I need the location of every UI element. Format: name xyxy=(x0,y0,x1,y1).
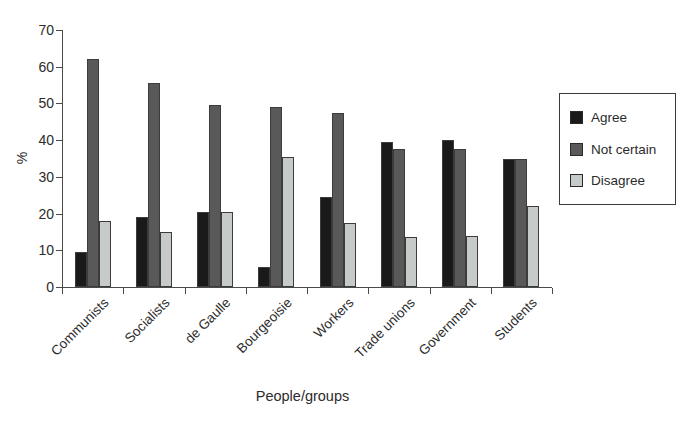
y-axis-tick xyxy=(56,250,62,251)
legend-item-disagree: Disagree xyxy=(570,173,675,188)
legend: AgreeNot certainDisagree xyxy=(559,93,676,205)
y-tick-label: 70 xyxy=(20,21,54,39)
y-tick-label: 0 xyxy=(20,278,54,296)
x-axis-tick xyxy=(368,288,369,294)
y-axis-tick xyxy=(56,30,62,31)
bar-trade-unions-agree xyxy=(381,142,393,287)
y-axis-tick xyxy=(56,140,62,141)
x-category-label-communists: Communists xyxy=(48,295,112,359)
x-category-label-government: Government xyxy=(416,295,479,358)
bar-government-agree xyxy=(442,140,454,287)
y-axis-title: % xyxy=(14,138,30,178)
bar-trade-unions-disagree xyxy=(405,237,417,287)
plot-area: 010203040506070CommunistsSocialistsde Ga… xyxy=(0,0,697,426)
bar-bourgeoisie-not-certain xyxy=(270,107,282,287)
x-axis-tick xyxy=(123,288,124,294)
bar-communists-disagree xyxy=(99,221,111,287)
x-category-label-trade-unions: Trade unions xyxy=(351,295,417,361)
bar-government-not-certain xyxy=(454,149,466,287)
x-axis-tick xyxy=(430,288,431,294)
y-tick-label: 20 xyxy=(20,205,54,223)
x-axis-tick xyxy=(552,288,553,294)
bar-chart-figure: 010203040506070CommunistsSocialistsde Ga… xyxy=(0,0,697,426)
bar-government-disagree xyxy=(466,236,478,287)
y-tick-label: 10 xyxy=(20,241,54,259)
legend-label-not-certain: Not certain xyxy=(591,142,656,157)
y-tick-label: 60 xyxy=(20,58,54,76)
x-category-label-students: Students xyxy=(492,295,540,343)
y-axis-tick xyxy=(56,67,62,68)
bar-communists-not-certain xyxy=(87,59,99,287)
x-category-label-bourgeoisie: Bourgeoisie xyxy=(234,295,295,356)
legend-swatch-disagree xyxy=(570,174,583,187)
bar-socialists-disagree xyxy=(160,232,172,287)
y-tick-label: 50 xyxy=(20,94,54,112)
legend-label-agree: Agree xyxy=(591,110,627,125)
x-axis-tick xyxy=(246,288,247,294)
y-axis-line xyxy=(62,30,63,287)
y-axis-tick xyxy=(56,214,62,215)
bar-communists-agree xyxy=(75,252,87,287)
legend-item-agree: Agree xyxy=(570,110,675,125)
bar-students-agree xyxy=(503,159,515,288)
x-category-label-socialists: Socialists xyxy=(122,295,173,346)
x-axis-tick xyxy=(62,288,63,294)
bar-de-gaulle-disagree xyxy=(221,212,233,287)
y-axis-tick xyxy=(56,103,62,104)
x-axis-tick xyxy=(491,288,492,294)
bar-socialists-not-certain xyxy=(148,83,160,287)
x-axis-title: People/groups xyxy=(160,388,445,404)
legend-item-not-certain: Not certain xyxy=(570,142,675,157)
bar-socialists-agree xyxy=(136,217,148,287)
legend-swatch-agree xyxy=(570,111,583,124)
bar-students-disagree xyxy=(527,206,539,287)
x-axis-tick xyxy=(307,288,308,294)
y-axis-tick xyxy=(56,177,62,178)
bar-trade-unions-not-certain xyxy=(393,149,405,287)
bar-bourgeoisie-agree xyxy=(258,267,270,287)
bar-de-gaulle-agree xyxy=(197,212,209,287)
bar-workers-not-certain xyxy=(332,113,344,287)
bar-students-not-certain xyxy=(515,159,527,288)
x-axis-tick xyxy=(185,288,186,294)
x-category-label-workers: Workers xyxy=(310,295,356,341)
bar-bourgeoisie-disagree xyxy=(282,157,294,287)
bar-workers-agree xyxy=(320,197,332,287)
x-category-label-de-gaulle: de Gaulle xyxy=(182,295,233,346)
bar-workers-disagree xyxy=(344,223,356,287)
legend-swatch-not-certain xyxy=(570,143,583,156)
bar-de-gaulle-not-certain xyxy=(209,105,221,287)
legend-label-disagree: Disagree xyxy=(591,173,645,188)
